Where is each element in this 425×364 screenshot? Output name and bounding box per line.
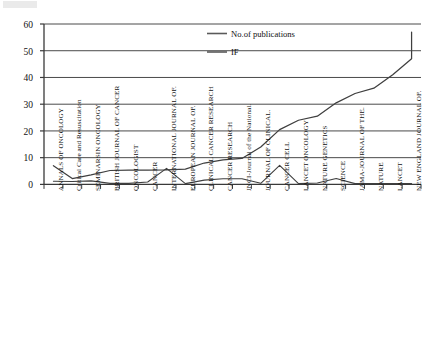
y-tick-label: 40 [24, 73, 34, 83]
series-line-if [53, 165, 411, 183]
y-tick-label: 60 [24, 20, 34, 30]
y-tick-label: 20 [24, 127, 34, 137]
legend-label-no-of-publications: No.of publications [231, 29, 296, 39]
y-axis-tick-labels: 60 50 40 30 20 10 0 [24, 20, 34, 190]
y-tick-label: 50 [24, 47, 34, 57]
y-tick-label: 0 [28, 180, 33, 190]
y-tick-label: 30 [24, 100, 34, 110]
line-chart-plot: 60 50 40 30 20 10 0 No.of publications I… [0, 0, 425, 364]
chart-container: 60 50 40 30 20 10 0 No.of publications I… [0, 0, 425, 364]
y-tick-label: 10 [24, 153, 34, 163]
legend: No.of publications IF [207, 29, 296, 58]
legend-label-if: IF [231, 47, 239, 57]
x-axis-tick-marks [44, 184, 421, 189]
